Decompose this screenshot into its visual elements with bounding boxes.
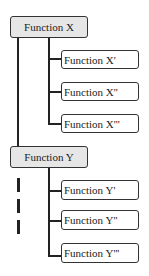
node-function-x-triple-prime: Function X''' bbox=[61, 114, 139, 133]
connector-x3 bbox=[48, 123, 62, 125]
node-label: Function X' bbox=[64, 54, 116, 66]
node-label: Function Y'' bbox=[64, 214, 117, 226]
connector-x2 bbox=[48, 91, 62, 93]
node-label: Function X''' bbox=[64, 118, 120, 130]
branch-line-x bbox=[48, 37, 50, 125]
node-function-x-double-prime: Function X'' bbox=[61, 82, 139, 101]
spine-line-x-to-y bbox=[17, 37, 19, 147]
node-label: Function Y''' bbox=[64, 247, 119, 259]
node-function-y-double-prime: Function Y'' bbox=[61, 210, 139, 230]
node-function-y: Function Y bbox=[10, 146, 88, 168]
node-label: Function X'' bbox=[64, 86, 118, 98]
connector-y1 bbox=[48, 190, 62, 192]
node-function-y-triple-prime: Function Y''' bbox=[61, 243, 139, 263]
node-function-x-prime: Function X' bbox=[61, 50, 139, 69]
connector-x1 bbox=[48, 58, 62, 60]
node-label: Function X bbox=[24, 21, 74, 33]
spine-dash-1 bbox=[17, 178, 20, 192]
node-function-y-prime: Function Y' bbox=[61, 180, 139, 200]
connector-y2 bbox=[48, 220, 62, 222]
node-label: Function Y' bbox=[64, 184, 115, 196]
connector-y3 bbox=[48, 255, 62, 257]
spine-dash-2 bbox=[17, 199, 20, 213]
node-function-x: Function X bbox=[10, 16, 88, 38]
branch-line-y bbox=[48, 168, 50, 257]
spine-dash-3 bbox=[17, 220, 20, 234]
node-label: Function Y bbox=[24, 151, 73, 163]
